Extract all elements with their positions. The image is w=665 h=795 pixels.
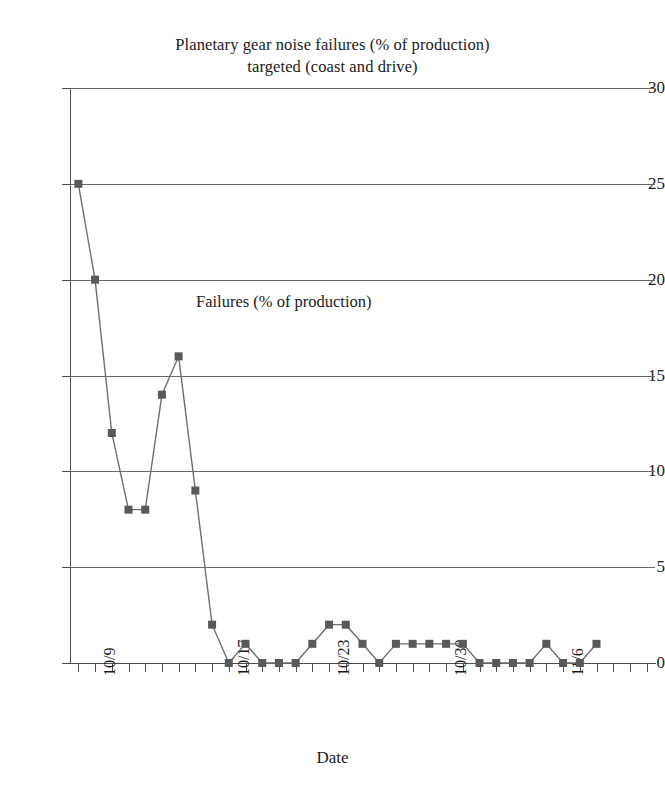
x-axis-tick <box>195 664 196 672</box>
gridline <box>70 280 655 281</box>
x-axis-tick <box>480 664 481 672</box>
gridline <box>70 567 655 568</box>
x-axis-tick <box>296 664 297 672</box>
series-annotation-label: Failures (% of production) <box>196 292 372 312</box>
x-axis-tick <box>379 664 380 672</box>
x-axis-tick <box>145 664 146 672</box>
x-axis-tick <box>563 664 564 672</box>
x-axis-tick <box>446 664 447 672</box>
gridline <box>70 184 655 185</box>
x-axis-tick <box>597 664 598 672</box>
gridline <box>70 88 655 89</box>
x-axis-tick <box>95 664 96 672</box>
x-axis-tick <box>429 664 430 672</box>
x-axis-tick <box>647 664 648 672</box>
x-axis-tick <box>613 664 614 672</box>
x-axis-tick <box>630 664 631 672</box>
x-axis-tick-label: 10/23 <box>336 640 352 676</box>
x-axis-tick <box>496 664 497 672</box>
x-axis-tick <box>262 664 263 672</box>
x-axis-tick-label: 10/30 <box>453 640 469 676</box>
x-axis-tick <box>513 664 514 672</box>
chart-title-line-1: Planetary gear noise failures (% of prod… <box>175 35 489 54</box>
x-axis-tick <box>329 664 330 672</box>
plot-area <box>70 88 655 663</box>
x-axis-tick <box>212 664 213 672</box>
chart-title-line-2: targeted (coast and drive) <box>0 56 665 78</box>
x-axis-tick <box>396 664 397 672</box>
chart-container: Planetary gear noise failures (% of prod… <box>0 0 665 795</box>
x-axis-tick <box>179 664 180 672</box>
x-axis-tick <box>78 664 79 672</box>
x-axis-title: Date <box>0 748 665 768</box>
x-axis-tick <box>546 664 547 672</box>
x-axis-tick <box>530 664 531 672</box>
gridline <box>70 376 655 377</box>
x-axis-tick <box>229 664 230 672</box>
x-axis-tick <box>162 664 163 672</box>
x-axis-tick <box>312 664 313 672</box>
x-axis-tick <box>279 664 280 672</box>
gridline <box>70 471 655 472</box>
x-axis-tick <box>129 664 130 672</box>
x-axis-tick-label: 11/6 <box>570 648 586 676</box>
x-axis-tick <box>413 664 414 672</box>
x-axis-tick <box>363 664 364 672</box>
x-axis-tick-label: 10/17 <box>236 640 252 676</box>
chart-title: Planetary gear noise failures (% of prod… <box>0 34 665 78</box>
x-axis-tick-label: 10/9 <box>102 648 118 676</box>
